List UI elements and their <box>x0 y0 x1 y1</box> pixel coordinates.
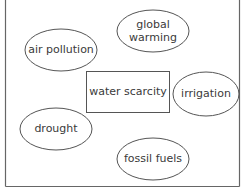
concept-node-fossil-fuels: fossil fuels <box>117 138 189 180</box>
center-concept-box: water scarcity <box>87 72 170 113</box>
concept-node-irrigation: irrigation <box>173 72 239 116</box>
concept-node-label: global <box>136 18 170 31</box>
concept-node-global-warming: globalwarming <box>117 10 189 52</box>
concept-node-air-pollution: air pollution <box>25 29 97 71</box>
concept-node-label: fossil fuels <box>124 152 182 165</box>
concept-node-drought: drought <box>20 108 92 150</box>
concept-node-label: irrigation <box>181 87 231 100</box>
concept-node-label: warming <box>129 31 177 44</box>
center-concept-label: water scarcity <box>89 85 167 98</box>
diagram-canvas: water scarcity air pollutionglobalwarmin… <box>0 0 244 192</box>
concept-node-label: air pollution <box>28 43 94 56</box>
concept-node-label: drought <box>34 122 78 135</box>
